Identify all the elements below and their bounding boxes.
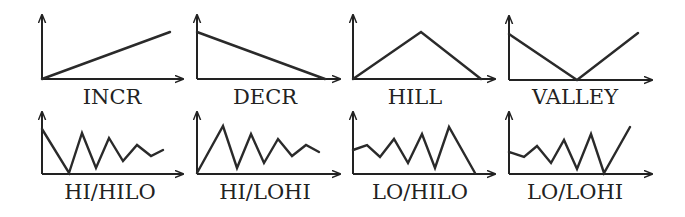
trend-curve xyxy=(509,127,630,173)
panel-label: VALLEY xyxy=(531,85,619,109)
panel-label: LO/HILO xyxy=(372,180,468,204)
trend-curve xyxy=(509,33,638,80)
trend-curve xyxy=(42,129,163,173)
trend-curve xyxy=(353,127,475,173)
panel-label: HI/HILO xyxy=(64,180,155,204)
trend-shapes-diagram: INCRDECRHILLVALLEYHI/HILOHI/LOHILO/HILOL… xyxy=(0,0,685,217)
trend-curve xyxy=(197,126,319,173)
panel-valley: VALLEY xyxy=(509,16,652,109)
panel-hi-lohi: HI/LOHI xyxy=(197,112,340,204)
panel-incr: INCR xyxy=(42,15,183,109)
panel-decr: DECR xyxy=(197,15,340,109)
panel-lo-hilo: LO/HILO xyxy=(353,112,495,204)
panel-label: INCR xyxy=(83,85,143,109)
panel-hill: HILL xyxy=(353,15,495,109)
panel-label: HILL xyxy=(388,85,443,109)
panel-lo-lohi: LO/LOHI xyxy=(509,112,652,204)
panel-hi-hilo: HI/HILO xyxy=(42,112,183,204)
trend-curve xyxy=(353,32,481,79)
trend-curve xyxy=(197,32,325,79)
trend-curve xyxy=(42,32,170,79)
panel-label: DECR xyxy=(233,85,298,109)
panel-label: HI/LOHI xyxy=(219,180,310,204)
panel-label: LO/LOHI xyxy=(527,180,623,204)
